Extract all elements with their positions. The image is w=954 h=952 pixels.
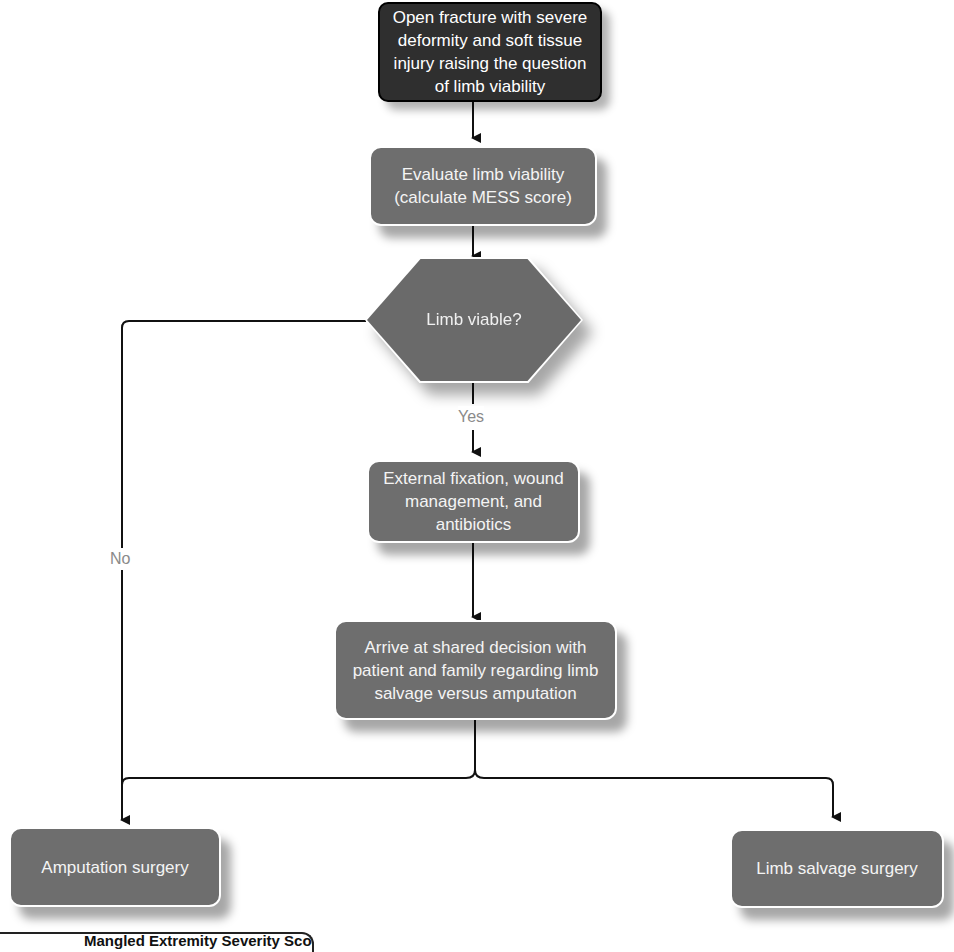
node-evaluate: Evaluate limb viability (calculate MESS …	[369, 146, 597, 226]
node-decision-label: Limb viable?	[426, 310, 521, 330]
node-shared-decision-label: Arrive at shared decision with patient a…	[346, 636, 605, 705]
node-evaluate-label: Evaluate limb viability (calculate MESS …	[381, 163, 585, 209]
node-decision: Limb viable?	[365, 257, 583, 383]
node-start: Open fracture with severe deformity and …	[378, 2, 602, 102]
node-fixation-label: External fixation, wound management, and…	[379, 467, 568, 536]
edge-shared-salvage	[129, 770, 833, 817]
node-salvage-label: Limb salvage surgery	[756, 857, 918, 880]
mess-heading: Mangled Extremity Severity Score (MESS)	[0, 932, 314, 952]
edge-shared-amputation	[122, 778, 129, 785]
node-start-label: Open fracture with severe deformity and …	[386, 6, 594, 98]
node-shared-decision: Arrive at shared decision with patient a…	[334, 620, 617, 720]
mess-heading-text: Mangled Extremity Severity Score (MESS)	[84, 932, 314, 949]
edge-label-no: No	[110, 548, 130, 570]
edge-label-yes: Yes	[458, 406, 484, 428]
node-salvage: Limb salvage surgery	[730, 829, 944, 908]
edge-decision-no	[122, 321, 366, 548]
node-amputation: Amputation surgery	[9, 827, 221, 907]
node-fixation: External fixation, wound management, and…	[367, 460, 580, 543]
node-amputation-label: Amputation surgery	[41, 856, 188, 879]
